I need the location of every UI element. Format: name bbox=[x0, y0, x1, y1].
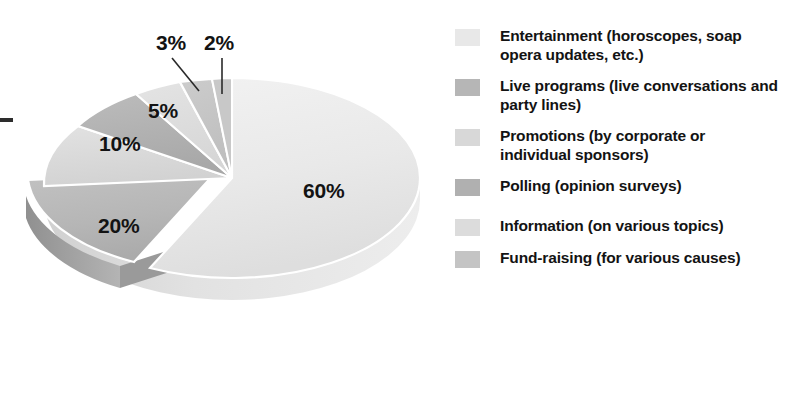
pie-label-60-percent: 60% bbox=[303, 180, 344, 201]
pie-label-20-percent: 20% bbox=[98, 215, 139, 236]
pie-label-10-percent: 10% bbox=[99, 133, 140, 154]
legend-swatch-polling bbox=[455, 179, 480, 196]
legend-swatch-promotions bbox=[455, 129, 480, 146]
legend-label-live-programs: Live programs (live conversations and pa… bbox=[500, 76, 780, 114]
legend-item-entertainment: Entertainment (horoscopes, soap opera up… bbox=[455, 26, 787, 64]
legend-swatch-entertainment bbox=[455, 29, 480, 46]
legend-label-polling: Polling (opinion surveys) bbox=[500, 176, 681, 195]
legend-label-information: Information (on various topics) bbox=[500, 216, 724, 235]
legend-swatch-live-programs bbox=[455, 79, 480, 96]
legend-swatch-information bbox=[455, 219, 480, 236]
pie-label-3-percent: 3% bbox=[156, 32, 186, 53]
pie-chart-graphic bbox=[0, 0, 440, 393]
chart-area: 60% 20% 10% 5% 3% 2% bbox=[0, 0, 440, 393]
pie-label-2-percent: 2% bbox=[204, 32, 234, 53]
legend-item-promotions: Promotions (by corporate or individual s… bbox=[455, 126, 787, 164]
legend-item-fund-raising: Fund-raising (for various causes) bbox=[455, 248, 787, 268]
pie-label-5-percent: 5% bbox=[148, 100, 178, 121]
legend-item-polling: Polling (opinion surveys) bbox=[455, 176, 787, 196]
pie-chart-figure: 60% 20% 10% 5% 3% 2% Entertainment (horo… bbox=[0, 0, 787, 393]
legend-label-promotions: Promotions (by corporate or individual s… bbox=[500, 126, 780, 164]
legend-item-live-programs: Live programs (live conversations and pa… bbox=[455, 76, 787, 114]
legend-item-information: Information (on various topics) bbox=[455, 216, 787, 236]
legend-swatch-fund-raising bbox=[455, 251, 480, 268]
chart-legend: Entertainment (horoscopes, soap opera up… bbox=[455, 26, 787, 280]
legend-label-entertainment: Entertainment (horoscopes, soap opera up… bbox=[500, 26, 780, 64]
legend-label-fund-raising: Fund-raising (for various causes) bbox=[500, 248, 741, 267]
